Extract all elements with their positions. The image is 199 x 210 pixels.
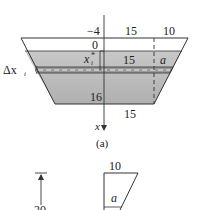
label-bottom-16: 16: [90, 90, 102, 104]
caption-a: (a): [96, 137, 109, 150]
label-neg4: −4: [87, 24, 100, 38]
label-zero: 0: [92, 38, 98, 52]
label-delta-x: Δx: [3, 63, 17, 77]
label-mid-15: 15: [123, 53, 135, 67]
label-mid-a: a: [160, 53, 166, 67]
figure-b: 20 10 a: [34, 159, 138, 210]
label-height-20: 20: [34, 203, 46, 210]
label-below-15: 15: [124, 107, 136, 121]
label-section-10: 10: [109, 159, 121, 173]
label-xi-star-sub: i: [91, 59, 93, 67]
figure-a: −4 15 10 0 x * i 15 a Δx i 16 15 x (a): [3, 15, 188, 150]
x-axis-arrow-icon: [101, 125, 107, 131]
label-top-15: 15: [125, 24, 137, 38]
label-xi-star: x: [83, 52, 90, 66]
label-delta-x-sub: i: [24, 70, 26, 78]
label-top-10: 10: [163, 24, 175, 38]
label-axis-x: x: [94, 120, 100, 132]
section-outline: [104, 173, 138, 210]
height-arrow-icon: [38, 174, 44, 180]
label-section-a: a: [111, 191, 117, 205]
tank-diagram: −4 15 10 0 x * i 15 a Δx i 16 15 x (a) 2…: [0, 0, 199, 210]
